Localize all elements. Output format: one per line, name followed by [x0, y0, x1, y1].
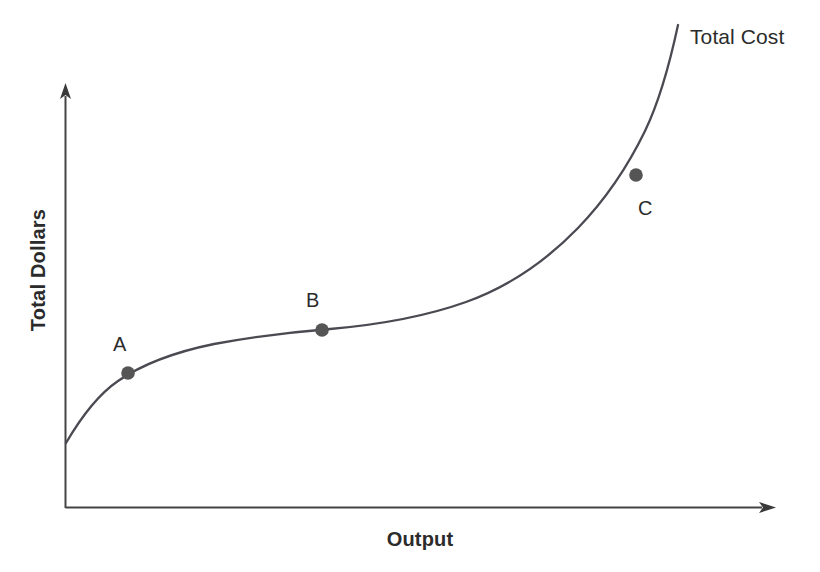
total-cost-chart-figure: Total Cost Total Dollars Output A B C — [0, 0, 820, 572]
y-axis — [60, 83, 71, 508]
data-point-c-marker[interactable] — [629, 168, 643, 182]
x-axis — [66, 502, 777, 513]
data-point-b-marker[interactable] — [315, 323, 329, 337]
chart-plot-area — [0, 0, 820, 572]
data-point-a-marker[interactable] — [121, 366, 135, 380]
total-cost-curve — [66, 25, 678, 443]
